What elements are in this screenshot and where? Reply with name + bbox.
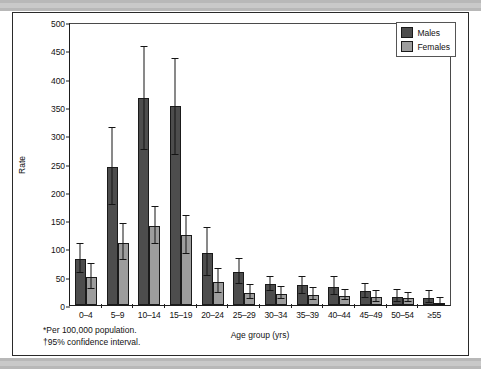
- bar-females: [149, 24, 160, 305]
- error-cap-lower: [88, 288, 95, 289]
- bar-males: [360, 24, 371, 305]
- error-cap-lower: [373, 301, 380, 302]
- y-axis-title: Rate: [17, 156, 27, 174]
- bar-males: [233, 24, 244, 305]
- error-cap-upper: [140, 46, 147, 47]
- legend-item-males: Males: [401, 27, 450, 38]
- error-cap-lower: [109, 204, 116, 205]
- error-cap-lower: [172, 154, 179, 155]
- bar-males: [75, 24, 86, 305]
- error-cap-upper: [246, 284, 253, 285]
- bar-group: 40–44: [323, 24, 355, 305]
- error-bar: [333, 277, 334, 295]
- legend-swatch-males-icon: [401, 27, 413, 38]
- bar-group: 30–34: [260, 24, 292, 305]
- bar-group: 0–4: [70, 24, 102, 305]
- error-cap-upper: [215, 268, 222, 269]
- footnotes: *Per 100,000 population. †95% confidence…: [43, 324, 140, 348]
- error-cap-lower: [120, 259, 127, 260]
- error-cap-upper: [373, 290, 380, 291]
- bar-females: [308, 24, 319, 305]
- bar-males: [265, 24, 276, 305]
- error-bar: [175, 59, 176, 155]
- bar-females: [434, 24, 445, 305]
- error-cap-upper: [362, 283, 369, 284]
- legend-item-females: Females: [401, 41, 450, 52]
- bar-females: [213, 24, 224, 305]
- x-tick-label: ≥55: [427, 310, 441, 320]
- error-cap-lower: [330, 294, 337, 295]
- error-bar: [365, 284, 366, 299]
- error-cap-upper: [172, 58, 179, 59]
- bar-males: [297, 24, 308, 305]
- error-cap-lower: [183, 253, 190, 254]
- error-cap-upper: [425, 290, 432, 291]
- x-tick-label: 5–9: [111, 310, 125, 320]
- error-cap-upper: [436, 297, 443, 298]
- error-cap-upper: [77, 243, 84, 244]
- figure-frame: Rate 050100150200250300350400450500 0–45…: [12, 12, 469, 356]
- error-cap-lower: [310, 299, 317, 300]
- bar-females: [371, 24, 382, 305]
- legend-swatch-females-icon: [401, 41, 413, 52]
- error-bar: [302, 277, 303, 294]
- x-tick-label: 0–4: [79, 310, 93, 320]
- bar-group: 5–9: [102, 24, 134, 305]
- error-cap-lower: [278, 298, 285, 299]
- error-cap-lower: [425, 302, 432, 303]
- error-cap-upper: [204, 227, 211, 228]
- error-cap-lower: [405, 301, 412, 302]
- error-cap-lower: [77, 272, 84, 273]
- x-tick-label: 30–34: [265, 310, 288, 320]
- bar-females: [86, 24, 97, 305]
- error-cap-upper: [88, 263, 95, 264]
- bar-males: [138, 24, 149, 305]
- bar-males: [202, 24, 213, 305]
- bar-males: [328, 24, 339, 305]
- bar-females: [276, 24, 287, 305]
- error-cap-upper: [151, 206, 158, 207]
- error-cap-upper: [278, 286, 285, 287]
- bar-females: [181, 24, 192, 305]
- bar-females: [339, 24, 350, 305]
- error-bar: [186, 216, 187, 253]
- bar-females: [118, 24, 129, 305]
- x-tick-label: 15–19: [170, 310, 193, 320]
- error-cap-lower: [246, 298, 253, 299]
- legend-label-females: Females: [417, 42, 450, 52]
- bottom-band-inner: [0, 361, 481, 366]
- error-cap-lower: [215, 292, 222, 293]
- error-cap-lower: [299, 293, 306, 294]
- x-tick-label: 40–44: [328, 310, 351, 320]
- bar-males: [423, 24, 434, 305]
- error-cap-upper: [120, 223, 127, 224]
- top-band-inner: [0, 3, 481, 8]
- bar-group: 50–54: [387, 24, 419, 305]
- error-bar: [218, 269, 219, 293]
- bar-group: 25–29: [228, 24, 260, 305]
- error-bar: [207, 228, 208, 276]
- error-cap-lower: [204, 275, 211, 276]
- x-tick-label: 35–39: [296, 310, 319, 320]
- error-bar: [270, 277, 271, 292]
- bottom-gray-band: [0, 358, 481, 369]
- bar-group: 35–39: [292, 24, 324, 305]
- error-cap-upper: [183, 215, 190, 216]
- x-tick-label: 45–49: [360, 310, 383, 320]
- bar-males: [107, 24, 118, 305]
- legend-label-males: Males: [417, 28, 440, 38]
- error-cap-upper: [394, 289, 401, 290]
- bar-females: [244, 24, 255, 305]
- bar-group: 45–49: [355, 24, 387, 305]
- y-tick-mark: [66, 307, 70, 308]
- error-cap-lower: [235, 283, 242, 284]
- error-bar: [91, 264, 92, 289]
- error-cap-lower: [436, 304, 443, 305]
- bar-group: 10–14: [133, 24, 165, 305]
- footnote-2: †95% confidence interval.: [43, 336, 140, 348]
- error-cap-upper: [405, 292, 412, 293]
- error-cap-upper: [310, 287, 317, 288]
- error-cap-upper: [299, 276, 306, 277]
- footnote-1: *Per 100,000 population.: [43, 324, 140, 336]
- error-cap-upper: [341, 289, 348, 290]
